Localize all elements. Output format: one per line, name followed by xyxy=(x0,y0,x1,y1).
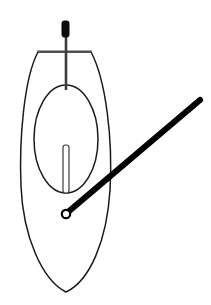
shaft-grip-handle-rect xyxy=(62,21,69,37)
rod-end-ring-circle xyxy=(62,210,70,218)
diagonal-rod-line xyxy=(68,100,200,212)
vertical-slot-rect xyxy=(63,145,69,193)
line-diagram-svg xyxy=(0,0,211,305)
figure-canvas xyxy=(0,0,211,305)
